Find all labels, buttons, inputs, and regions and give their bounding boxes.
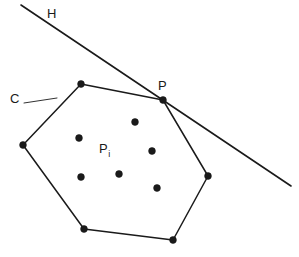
interior-point-marker bbox=[149, 148, 156, 155]
interior-point-marker bbox=[76, 135, 83, 142]
interior-point-marker bbox=[154, 185, 161, 192]
hull-vertex-marker bbox=[78, 81, 85, 88]
hull-edge bbox=[23, 84, 81, 145]
hull-vertex-marker bbox=[205, 173, 212, 180]
point-set-label: Pi bbox=[99, 142, 110, 159]
hyperplane-line bbox=[21, 5, 291, 186]
hull-edges-group bbox=[23, 84, 208, 240]
hull-edge bbox=[163, 100, 208, 176]
point-set-label-base: P bbox=[99, 141, 108, 156]
hull-label-leader-line bbox=[24, 98, 57, 103]
interior-point-marker bbox=[132, 119, 139, 126]
hyperplane-line-group bbox=[21, 5, 291, 186]
hull-label: C bbox=[10, 92, 19, 105]
hull-vertex-marker bbox=[81, 226, 88, 233]
hull-edge bbox=[84, 229, 173, 240]
hull-vertex-marker bbox=[170, 237, 177, 244]
hull-vertex-marker bbox=[20, 142, 27, 149]
hull-edge bbox=[23, 145, 84, 229]
hyperplane-label: H bbox=[47, 7, 56, 20]
interior-points-group bbox=[76, 119, 161, 192]
tangent-point-label: P bbox=[158, 79, 167, 92]
hull-vertex-marker bbox=[160, 97, 167, 104]
interior-point-marker bbox=[116, 171, 123, 178]
hull-edge bbox=[173, 176, 208, 240]
interior-point-marker bbox=[78, 174, 85, 181]
point-set-label-subscript: i bbox=[108, 149, 111, 159]
hull-vertex-markers-group bbox=[20, 81, 212, 244]
diagram-svg bbox=[0, 0, 299, 257]
hull-label-leader-line-group bbox=[24, 98, 57, 103]
geometry-diagram-canvas: H C P Pi bbox=[0, 0, 299, 257]
